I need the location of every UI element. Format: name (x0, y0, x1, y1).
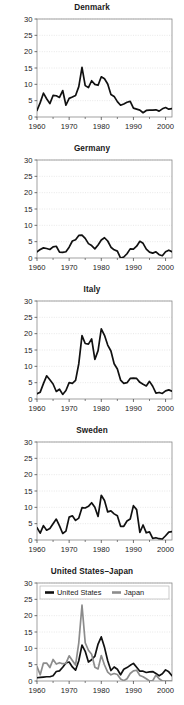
x-tick-label: 1960 (29, 404, 46, 413)
data-series-line (37, 329, 172, 395)
plot-area: 05101520253019601970198019902000 (0, 141, 184, 282)
y-tick-label: 15 (24, 205, 32, 214)
y-tick-label: 5 (28, 96, 32, 105)
y-tick-label: 10 (24, 644, 32, 653)
x-tick-label: 1980 (93, 263, 110, 272)
chart-panel: Sweden05101520253019601970198019902000 (0, 423, 184, 564)
plot-area: 05101520253019601970198019902000 (0, 423, 184, 564)
y-tick-label: 20 (24, 329, 32, 338)
chart-panel: Denmark05101520253019601970198019902000 (0, 0, 184, 141)
y-tick-label: 10 (24, 503, 32, 512)
data-series-line (37, 235, 172, 258)
y-tick-label: 10 (24, 221, 32, 230)
y-tick-label: 0 (28, 113, 32, 122)
y-tick-label: 0 (28, 677, 32, 686)
y-tick-label: 0 (28, 536, 32, 545)
x-tick-label: 2000 (157, 545, 174, 554)
chart-legend: United StatesJapan (40, 586, 169, 599)
chart-panel: Germany05101520253019601970198019902000 (0, 141, 184, 282)
y-tick-label: 20 (24, 470, 32, 479)
y-tick-label: 15 (24, 487, 32, 496)
y-tick-label: 15 (24, 64, 32, 73)
chart-panel: United States–Japan051015202530196019701… (0, 564, 184, 705)
y-tick-label: 0 (28, 254, 32, 263)
x-tick-label: 1970 (61, 263, 78, 272)
x-tick-label: 2000 (157, 122, 174, 131)
y-tick-label: 30 (24, 156, 32, 165)
legend-entry-label: United States (57, 588, 102, 597)
x-tick-label: 1990 (125, 263, 142, 272)
x-tick-label: 1970 (61, 122, 78, 131)
x-tick-label: 1990 (125, 404, 142, 413)
plot-area: 05101520253019601970198019902000United S… (0, 564, 184, 705)
y-tick-label: 25 (24, 595, 32, 604)
x-tick-label: 1970 (61, 686, 78, 695)
y-tick-label: 25 (24, 172, 32, 181)
plot-area: 05101520253019601970198019902000 (0, 0, 184, 141)
y-tick-label: 20 (24, 611, 32, 620)
y-tick-label: 20 (24, 188, 32, 197)
y-tick-label: 10 (24, 80, 32, 89)
y-tick-label: 10 (24, 362, 32, 371)
y-tick-label: 15 (24, 346, 32, 355)
x-tick-label: 1960 (29, 263, 46, 272)
y-tick-label: 25 (24, 454, 32, 463)
chart-panel: Italy05101520253019601970198019902000 (0, 282, 184, 423)
x-tick-label: 1980 (93, 122, 110, 131)
y-tick-label: 5 (28, 237, 32, 246)
y-tick-label: 25 (24, 31, 32, 40)
x-tick-label: 1960 (29, 686, 46, 695)
y-tick-label: 15 (24, 628, 32, 637)
x-tick-label: 2000 (157, 263, 174, 272)
x-tick-label: 1980 (93, 686, 110, 695)
x-tick-label: 1990 (125, 686, 142, 695)
x-tick-label: 1960 (29, 122, 46, 131)
y-tick-label: 25 (24, 313, 32, 322)
data-series-line (37, 605, 172, 681)
x-tick-label: 1980 (93, 404, 110, 413)
x-tick-label: 1970 (61, 404, 78, 413)
x-tick-label: 2000 (157, 404, 174, 413)
y-tick-label: 0 (28, 395, 32, 404)
y-tick-label: 30 (24, 297, 32, 306)
y-tick-label: 5 (28, 519, 32, 528)
data-series-line (37, 67, 172, 112)
y-tick-label: 30 (24, 15, 32, 24)
x-tick-label: 1990 (125, 545, 142, 554)
legend-entry-label: Japan (124, 588, 144, 597)
y-tick-label: 5 (28, 378, 32, 387)
y-tick-label: 20 (24, 47, 32, 56)
y-tick-label: 5 (28, 660, 32, 669)
x-tick-label: 1960 (29, 545, 46, 554)
y-tick-label: 30 (24, 579, 32, 588)
y-tick-label: 30 (24, 438, 32, 447)
x-tick-label: 1980 (93, 545, 110, 554)
x-tick-label: 1990 (125, 122, 142, 131)
data-series-line (37, 495, 172, 539)
small-multiples-figure: Denmark05101520253019601970198019902000G… (0, 0, 184, 705)
x-tick-label: 1970 (61, 545, 78, 554)
data-series-line (37, 637, 172, 678)
x-tick-label: 2000 (157, 686, 174, 695)
plot-area: 05101520253019601970198019902000 (0, 282, 184, 423)
